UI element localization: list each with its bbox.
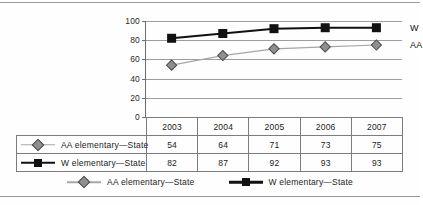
page-rule-bottom	[0, 196, 420, 197]
data-point-W-2004	[218, 29, 227, 38]
table-cell-AA-2003: 54	[147, 136, 198, 154]
table-cell-W-2005: 92	[249, 154, 300, 172]
table-col-header-2005: 2005	[249, 118, 300, 136]
data-point-W-2005	[270, 24, 279, 33]
table-row-label: AA elementary—State	[61, 140, 148, 150]
series-layer	[146, 21, 402, 117]
end-label-W: W	[410, 23, 419, 33]
table-col-header-2007: 2007	[351, 118, 402, 136]
y-tick-label-80: 80	[130, 35, 140, 45]
table-row: W elementary—State8287929393	[17, 154, 403, 172]
legend-label: AA elementary—State	[107, 177, 194, 187]
plot-area: 020406080100 AAW	[146, 21, 402, 117]
legend-marker-AA-icon	[67, 177, 101, 187]
table-col-header-2003: 2003	[147, 118, 198, 136]
table-row-header-AA: AA elementary—State	[17, 136, 147, 154]
legend-entry-W: W elementary—State	[229, 177, 353, 187]
table-row-label: W elementary—State	[61, 158, 145, 168]
data-point-AA-2006	[320, 42, 330, 52]
data-point-AA-2005	[269, 44, 279, 54]
legend-swatch-AA-icon	[21, 140, 55, 150]
data-point-AA-2007	[371, 40, 381, 50]
legend-entry-AA: AA elementary—State	[67, 177, 194, 187]
legend-swatch-W-icon	[21, 158, 55, 168]
table-cell-AA-2006: 73	[300, 136, 351, 154]
data-table: 20032004200520062007AA elementary—State5…	[16, 117, 403, 172]
data-point-AA-2003	[167, 60, 177, 70]
table-col-header-2006: 2006	[300, 118, 351, 136]
chart-legend: AA elementary—StateW elementary—State	[0, 177, 420, 187]
legend-label: W elementary—State	[269, 177, 353, 187]
data-point-W-2007	[372, 23, 381, 32]
end-label-AA: AA	[410, 40, 423, 50]
data-point-W-2006	[321, 23, 330, 32]
legend-marker-W-icon	[229, 177, 263, 187]
table-col-header-2004: 2004	[198, 118, 249, 136]
table-cell-AA-2004: 64	[198, 136, 249, 154]
table-cell-W-2007: 93	[351, 154, 402, 172]
table-cell-AA-2007: 75	[351, 136, 402, 154]
data-point-W-2003	[167, 34, 176, 43]
table-header-row: 20032004200520062007	[17, 118, 403, 136]
table-cell-W-2003: 82	[147, 154, 198, 172]
table-cell-W-2004: 87	[198, 154, 249, 172]
table-cell-W-2006: 93	[300, 154, 351, 172]
table-row-header-W: W elementary—State	[17, 154, 147, 172]
y-tick-label-20: 20	[130, 93, 140, 103]
table-corner-cell	[17, 118, 147, 136]
y-tick-label-40: 40	[130, 74, 140, 84]
y-tick-label-60: 60	[130, 54, 140, 64]
line-chart-figure: 020406080100 AAW 20032004200520062007AA …	[0, 3, 420, 195]
table-cell-AA-2005: 71	[249, 136, 300, 154]
table-row: AA elementary—State5464717375	[17, 136, 403, 154]
y-tick-label-100: 100	[125, 16, 140, 26]
data-point-AA-2004	[218, 50, 228, 60]
